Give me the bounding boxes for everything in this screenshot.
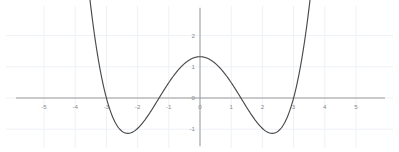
x-tick-label: -2 [135, 103, 141, 110]
x-tick-label: 2 [261, 103, 265, 110]
y-tick-label: 2 [192, 32, 196, 39]
function-plot: -5-4-3-2-1012345 -1012 [0, 0, 399, 152]
y-tick-label: 0 [192, 94, 196, 101]
y-tick-label: -1 [189, 125, 195, 132]
x-tick-label: -5 [41, 103, 47, 110]
x-tick-label: 5 [354, 103, 358, 110]
x-tick-label: 0 [198, 103, 202, 110]
y-tick-label: 1 [192, 63, 196, 70]
x-tick-label: 1 [229, 103, 233, 110]
x-tick-label: 4 [323, 103, 327, 110]
x-tick-label: -4 [72, 103, 78, 110]
x-tick-label: -1 [166, 103, 172, 110]
plot-canvas: -5-4-3-2-1012345 -1012 [0, 0, 399, 152]
